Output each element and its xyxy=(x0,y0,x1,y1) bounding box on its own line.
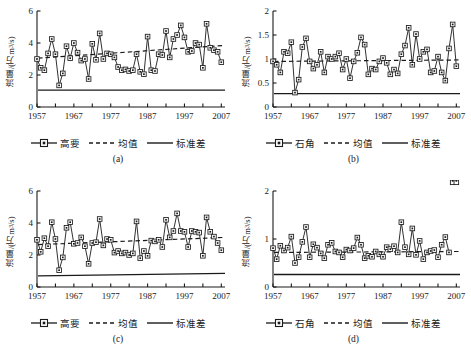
svg-text:1977: 1977 xyxy=(337,111,356,121)
legend-label-mean-d: 均值 xyxy=(353,316,373,330)
svg-text:1997: 1997 xyxy=(175,291,194,301)
svg-text:1957: 1957 xyxy=(264,111,283,121)
solid-line-icon xyxy=(382,138,408,148)
legend-entry-std-d: 标准差 xyxy=(382,316,441,330)
svg-text:1997: 1997 xyxy=(175,111,194,121)
legend-label-std-d: 标准差 xyxy=(411,316,441,330)
plot-area-b: 流量/(万m3/s) 00.511.5219571967197719871997… xyxy=(236,0,471,134)
legend-entry-std-a: 标准差 xyxy=(147,136,206,150)
panel-b: 流量/(万m3/s) 00.511.5219571967197719871997… xyxy=(236,0,471,180)
svg-text:1: 1 xyxy=(265,54,270,64)
svg-text:1977: 1977 xyxy=(102,291,121,301)
line-marker-square-icon xyxy=(266,138,292,148)
panel-d: 流量/(万m3/s) 012195719671977198719972007 石… xyxy=(236,180,471,360)
svg-text:1967: 1967 xyxy=(65,111,84,121)
solid-line-icon xyxy=(147,318,173,328)
legend-entry-std-b: 标准差 xyxy=(382,136,441,150)
svg-text:4: 4 xyxy=(29,38,34,48)
legend-label-station-c: 高要 xyxy=(60,316,80,330)
svg-text:6: 6 xyxy=(29,6,34,16)
dashed-line-icon xyxy=(89,318,115,328)
legend-label-mean-b: 均值 xyxy=(353,136,373,150)
chart-svg-b: 00.511.52195719671977198719972007 xyxy=(236,0,471,134)
svg-text:1967: 1967 xyxy=(301,291,320,301)
svg-text:2: 2 xyxy=(265,6,270,16)
svg-text:1977: 1977 xyxy=(337,291,356,301)
legend-label-std-a: 标准差 xyxy=(176,136,206,150)
svg-text:1987: 1987 xyxy=(139,111,158,121)
line-marker-square-icon xyxy=(31,138,57,148)
svg-text:1: 1 xyxy=(265,234,270,244)
svg-text:1967: 1967 xyxy=(301,111,320,121)
legend-label-station-d: 石角 xyxy=(295,316,315,330)
solid-line-icon xyxy=(147,138,173,148)
legend-entry-mean-c: 均值 xyxy=(89,316,138,330)
svg-text:1.5: 1.5 xyxy=(258,30,270,40)
svg-text:2: 2 xyxy=(29,250,34,260)
legend-label-std-b: 标准差 xyxy=(411,136,441,150)
svg-text:2007: 2007 xyxy=(447,111,466,121)
dashed-line-icon xyxy=(324,138,350,148)
svg-text:1987: 1987 xyxy=(374,111,393,121)
plot-area-d: 流量/(万m3/s) 012195719671977198719972007 xyxy=(236,180,471,314)
line-marker-square-icon xyxy=(266,318,292,328)
svg-text:1987: 1987 xyxy=(374,291,393,301)
legend-b: 石角 均值 标准差 xyxy=(236,134,471,152)
panel-c: 流量/(万m3/s) 0246195719671977198719972007 … xyxy=(0,180,236,360)
svg-text:2007: 2007 xyxy=(212,291,231,301)
legend-entry-mean-b: 均值 xyxy=(324,136,373,150)
legend-entry-std-c: 标准差 xyxy=(147,316,206,330)
legend-entry-mean-a: 均值 xyxy=(89,136,138,150)
svg-text:2007: 2007 xyxy=(212,111,231,121)
legend-label-mean-a: 均值 xyxy=(118,136,138,150)
dashed-line-icon xyxy=(324,318,350,328)
legend-entry-mean-d: 均值 xyxy=(324,316,373,330)
panel-caption-c: (c) xyxy=(0,334,236,344)
svg-text:2: 2 xyxy=(29,70,34,80)
svg-text:1987: 1987 xyxy=(139,291,158,301)
legend-label-station-a: 高要 xyxy=(60,136,80,150)
legend-d: 石角 均值 标准差 xyxy=(236,314,471,332)
legend-entry-station-d: 石角 xyxy=(266,316,315,330)
svg-text:1967: 1967 xyxy=(65,291,84,301)
svg-text:2007: 2007 xyxy=(447,291,466,301)
svg-text:1977: 1977 xyxy=(102,111,121,121)
plot-area-c: 流量/(万m3/s) 0246195719671977198719972007 xyxy=(0,180,236,314)
svg-text:1997: 1997 xyxy=(411,111,430,121)
legend-c: 高要 均值 标准差 xyxy=(0,314,236,332)
legend-entry-station-a: 高要 xyxy=(31,136,80,150)
panel-caption-b: (b) xyxy=(236,154,471,164)
svg-text:1997: 1997 xyxy=(411,291,430,301)
legend-label-mean-c: 均值 xyxy=(118,316,138,330)
panel-a: 流量/(万m3/s) 0246195719671977198719972007 … xyxy=(0,0,236,180)
plot-area-a: 流量/(万m3/s) 0246195719671977198719972007 xyxy=(0,0,236,134)
solid-line-icon xyxy=(382,318,408,328)
svg-text:2: 2 xyxy=(265,186,270,196)
legend-label-station-b: 石角 xyxy=(295,136,315,150)
panel-caption-a: (a) xyxy=(0,154,236,164)
chart-svg-d: 012195719671977198719972007 xyxy=(236,180,471,314)
legend-label-std-c: 标准差 xyxy=(176,316,206,330)
panel-caption-d: (d) xyxy=(236,334,471,344)
legend-entry-station-b: 石角 xyxy=(266,136,315,150)
legend-a: 高要 均值 标准差 xyxy=(0,134,236,152)
legend-entry-station-c: 高要 xyxy=(31,316,80,330)
svg-text:4: 4 xyxy=(29,218,34,228)
chart-svg-c: 0246195719671977198719972007 xyxy=(0,180,236,314)
svg-text:1957: 1957 xyxy=(264,291,283,301)
figure-four-panel-hydrograph: 流量/(万m3/s) 0246195719671977198719972007 … xyxy=(0,0,471,360)
svg-text:6: 6 xyxy=(29,186,34,196)
svg-text:1957: 1957 xyxy=(28,111,47,121)
chart-svg-a: 0246195719671977198719972007 xyxy=(0,0,236,134)
line-marker-square-icon xyxy=(31,318,57,328)
svg-text:0.5: 0.5 xyxy=(258,78,270,88)
dashed-line-icon xyxy=(89,138,115,148)
svg-text:1957: 1957 xyxy=(28,291,47,301)
